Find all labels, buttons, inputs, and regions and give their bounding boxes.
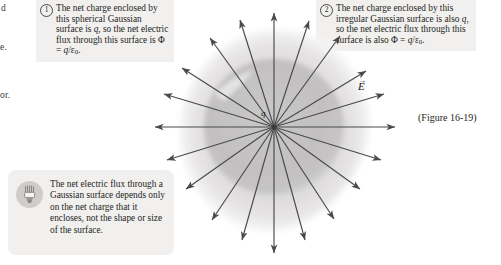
tip-callout-box: The net electric flux through a Gaussian… [8, 170, 174, 255]
vector-arrow-accent: → [358, 76, 366, 85]
gauss-law-diagram [150, 8, 400, 258]
lightbulb-icon [16, 181, 43, 208]
point-charge-dot [272, 125, 276, 129]
margin-text-fragment-1: d [1, 3, 6, 13]
margin-text-fragment-2: e. [0, 42, 7, 52]
tip-text: The net electric flux through a Gaussian… [50, 179, 168, 236]
callout-badge-1-number: 1 [40, 4, 53, 17]
charge-label: q [261, 108, 266, 118]
margin-text-fragment-3: or. [0, 90, 10, 100]
figure-reference: (Figure 16-19) [418, 112, 477, 123]
electric-field-label: → E [358, 80, 365, 92]
